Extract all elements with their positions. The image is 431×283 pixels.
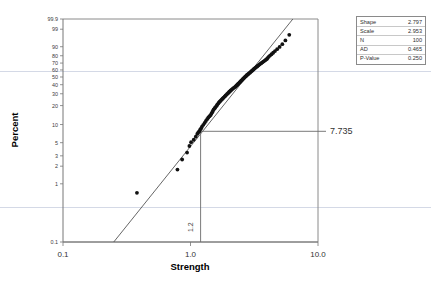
statistics-row: Shape2.797 xyxy=(357,18,425,27)
data-point xyxy=(287,33,291,37)
statistics-label: Shape xyxy=(357,18,395,27)
strength-readout-label: 1.2 xyxy=(187,222,194,232)
data-point xyxy=(280,42,284,46)
percent-readout-label: 7.735 xyxy=(330,126,353,136)
statistics-row: P-Value0.250 xyxy=(357,54,425,63)
x-axis-tick-label: 1.0 xyxy=(185,250,197,259)
data-point xyxy=(185,151,189,155)
y-axis-tick-label: 99.9 xyxy=(48,16,59,22)
plot-frame xyxy=(63,19,318,242)
data-point xyxy=(283,39,287,43)
y-axis-tick-label: 99 xyxy=(52,26,58,32)
x-axis-tick-label: 10.0 xyxy=(310,250,326,259)
y-axis-tick-label: 0.1 xyxy=(51,239,59,245)
data-point xyxy=(176,168,180,172)
readout-crosshair xyxy=(201,131,326,242)
y-axis-tick-label: 30 xyxy=(52,91,58,97)
y-axis-tick-label: 3 xyxy=(55,153,58,159)
y-axis-tick-label: 90 xyxy=(52,44,58,50)
statistics-row: Scale2.953 xyxy=(357,27,425,36)
faint-background-gridlines xyxy=(0,72,431,208)
statistics-value: 0.465 xyxy=(395,45,425,54)
statistics-table: Shape2.797Scale2.953N100AD0.465P-Value0.… xyxy=(357,18,425,63)
statistics-label: Scale xyxy=(357,27,395,36)
x-axis-title: Strength xyxy=(170,261,209,272)
statistics-value: 0.250 xyxy=(395,54,425,63)
y-axis-tick-label: 70 xyxy=(52,60,58,66)
y-axis-tick-label: 5 xyxy=(55,140,58,146)
data-point xyxy=(135,191,139,195)
data-point xyxy=(187,144,191,148)
x-axis-tick-label: 0.1 xyxy=(57,250,69,259)
y-axis-title: Percent xyxy=(9,112,20,148)
weibull-fit-line xyxy=(114,19,293,242)
y-axis-tick-label: 80 xyxy=(52,53,58,59)
y-axis-tick-label: 2 xyxy=(55,163,58,169)
y-axis-tick-label: 20 xyxy=(52,103,58,109)
data-point xyxy=(180,158,184,162)
y-axis-tick-label: 60 xyxy=(52,67,58,73)
probability-plot-page: 99.99990807060504030201053210.1 0.11.010… xyxy=(0,0,431,283)
statistics-value: 2.797 xyxy=(395,18,425,27)
statistics-row: N100 xyxy=(357,36,425,45)
statistics-label: AD xyxy=(357,45,395,54)
x-axis-ticks xyxy=(63,242,318,246)
y-axis-tick-label: 10 xyxy=(52,122,58,128)
data-point-series xyxy=(135,33,291,195)
statistics-row: AD0.465 xyxy=(357,45,425,54)
statistics-label: N xyxy=(357,36,395,45)
statistics-value: 2.953 xyxy=(395,27,425,36)
x-axis-tick-labels: 0.11.010.0 xyxy=(57,250,326,259)
statistics-legend-box: Shape2.797Scale2.953N100AD0.465P-Value0.… xyxy=(356,16,426,65)
statistics-value: 100 xyxy=(395,36,425,45)
data-point xyxy=(278,45,282,49)
y-axis-tick-label: 50 xyxy=(52,74,58,80)
y-axis-tick-labels: 99.99990807060504030201053210.1 xyxy=(48,16,59,245)
y-axis-tick-label: 1 xyxy=(55,181,58,187)
y-axis-tick-label: 40 xyxy=(52,82,58,88)
statistics-label: P-Value xyxy=(357,54,395,63)
